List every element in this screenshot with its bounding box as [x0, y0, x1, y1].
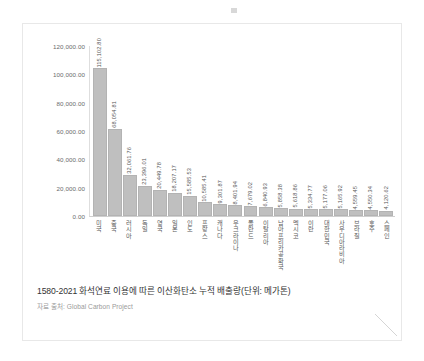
x-label-slot: 멕시코: [289, 218, 303, 280]
x-label-slot: 프랑스: [198, 218, 212, 280]
bar-value-label: 68,054.81: [112, 101, 118, 128]
bar-slot: 4,550.34: [364, 30, 378, 216]
x-axis-category-label: 중국: [111, 218, 117, 233]
x-axis-category-label: 폴란드: [247, 218, 253, 239]
x-label-slot: 영국: [152, 218, 166, 280]
x-label-slot: 이란: [304, 218, 318, 280]
bar-value-label: 7,679.02: [248, 182, 254, 205]
x-axis-category-label: 프랑스: [202, 218, 208, 239]
bar-value-label: 5,618.86: [293, 184, 299, 207]
x-axis-category-label: 멕시코: [293, 218, 299, 239]
x-axis-category-label: 이란: [308, 218, 314, 233]
x-axis-category-label: 호주: [368, 218, 374, 233]
bar[interactable]: [274, 208, 288, 216]
bar[interactable]: [289, 209, 303, 216]
y-axis-tick: 60,000.00: [57, 128, 85, 135]
bar[interactable]: [93, 68, 107, 216]
x-axis-category-label: 미국: [95, 218, 101, 233]
bar-slot: 20,449.78: [153, 30, 167, 216]
bar[interactable]: [198, 202, 212, 216]
bar-slot: 5,618.86: [289, 30, 303, 216]
bar[interactable]: [349, 210, 363, 216]
x-label-slot: 캐나다: [213, 218, 227, 280]
x-label-slot: 중국: [107, 218, 121, 280]
x-axis-category-label: 러시아: [126, 218, 132, 239]
x-axis-category-label: 영국: [156, 218, 162, 233]
x-label-slot: 사우디아라비아: [334, 218, 348, 280]
chart-caption: 1580-2021 화석연료 이용에 따른 이산화탄소 누적 배출량(단위: 메…: [37, 286, 387, 311]
x-label-slot: 우크라이나: [228, 218, 242, 280]
bar[interactable]: [319, 209, 333, 216]
bar-value-label: 5,165.92: [338, 185, 344, 208]
bar[interactable]: [138, 186, 152, 216]
resize-handle[interactable]: [373, 312, 399, 338]
bar-slot: 4,559.45: [349, 30, 363, 216]
bar[interactable]: [334, 209, 348, 216]
bar-slot: 5,165.92: [334, 30, 348, 216]
x-label-slot: 폴란드: [243, 218, 257, 280]
bar-value-label: 4,550.34: [368, 186, 374, 209]
bar-value-label: 15,585.53: [187, 168, 193, 195]
bar-value-label: 32,061.76: [127, 147, 133, 174]
x-label-slot: 호주: [364, 218, 378, 280]
x-label-slot: 스페인: [380, 218, 394, 280]
bar[interactable]: [153, 190, 167, 216]
x-label-slot: 대한민국: [319, 218, 333, 280]
bar[interactable]: [123, 175, 137, 216]
bar[interactable]: [228, 205, 242, 216]
x-label-slot: 독일: [137, 218, 151, 280]
bar-value-label: 20,449.78: [157, 162, 163, 189]
bar[interactable]: [183, 196, 197, 216]
bar-value-label: 6,840.93: [263, 183, 269, 206]
x-axis-category-label: 캐나다: [217, 218, 223, 239]
x-label-slot: 브라질: [349, 218, 363, 280]
bar[interactable]: [259, 207, 273, 216]
bar[interactable]: [244, 206, 258, 216]
chart-source: 자료 출처: Global Carbon Project: [37, 301, 387, 311]
bar-slot: 5,334.77: [304, 30, 318, 216]
x-axis-category-label: 우크라이나: [232, 218, 238, 252]
chart-card: 120,000.00100,000.0080,000.0060,000.0040…: [22, 23, 402, 341]
y-axis-tick: 120,000.00: [53, 43, 85, 50]
x-axis-category-label: 스페인: [383, 218, 389, 239]
bar-slot: 18,207.17: [168, 30, 182, 216]
bar-value-label: 23,396.01: [142, 158, 148, 185]
top-marker: [231, 8, 237, 13]
x-axis-category-label: 이탈리아: [262, 218, 268, 245]
bar-value-label: 4,120.62: [384, 186, 390, 209]
bar-value-label: 10,585.41: [202, 175, 208, 202]
bar-value-label: 8,401.94: [233, 181, 239, 204]
bar-series: 115,102.8068,054.8132,061.7623,396.0120,…: [91, 30, 395, 216]
bar-slot: 32,061.76: [123, 30, 137, 216]
y-axis-tick: 80,000.00: [57, 99, 85, 106]
x-label-slot: 남아프리카공화국: [273, 218, 287, 280]
y-axis-tick: 100,000.00: [53, 71, 85, 78]
bar[interactable]: [379, 211, 393, 216]
bar-slot: 68,054.81: [108, 30, 122, 216]
x-label-slot: 미국: [92, 218, 106, 280]
bar-value-label: 115,102.80: [97, 38, 103, 68]
bar[interactable]: [213, 204, 227, 216]
bar-slot: 9,301.87: [213, 30, 227, 216]
x-label-slot: 일본: [167, 218, 181, 280]
bar[interactable]: [168, 193, 182, 216]
bar[interactable]: [108, 129, 122, 216]
x-label-slot: 러시아: [122, 218, 136, 280]
bar-value-label: 4,559.45: [353, 186, 359, 209]
bar[interactable]: [304, 209, 318, 216]
x-axis-category-label: 독일: [141, 218, 147, 233]
y-axis-tick: 20,000.00: [57, 184, 85, 191]
x-label-slot: 이탈리아: [258, 218, 272, 280]
bar-value-label: 5,177.06: [323, 185, 329, 208]
plot-area: 115,102.8068,054.8132,061.7623,396.0120,…: [89, 46, 395, 217]
bar-slot: 6,840.93: [259, 30, 273, 216]
bar-slot: 5,858.38: [274, 30, 288, 216]
bar[interactable]: [364, 210, 378, 216]
x-axis-category-label: 대한민국: [323, 218, 329, 245]
x-axis-category-label: 사우디아라비아: [338, 218, 344, 264]
chart-plot-wrapper: 120,000.00100,000.0080,000.0060,000.0040…: [23, 24, 401, 246]
bar-slot: 23,396.01: [138, 30, 152, 216]
bar-slot: 7,679.02: [244, 30, 258, 216]
y-axis-tick: 0.00: [73, 213, 85, 220]
x-axis-category-label: 일본: [171, 218, 177, 233]
